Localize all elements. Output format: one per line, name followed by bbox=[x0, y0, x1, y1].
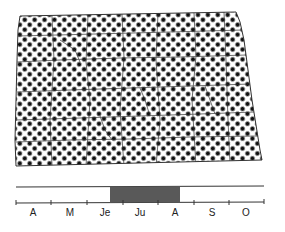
active-period-bar bbox=[110, 187, 180, 203]
month-label-september: S bbox=[209, 207, 216, 218]
month-label-july: Ju bbox=[135, 207, 146, 218]
month-label-october: O bbox=[242, 207, 250, 218]
month-labels: A M Je Ju A S O bbox=[30, 207, 250, 218]
phenology-timeline: A M Je Ju A S O bbox=[16, 186, 264, 218]
range-figure: A M Je Ju A S O bbox=[0, 0, 285, 232]
month-label-april: A bbox=[30, 207, 37, 218]
state-map bbox=[15, 12, 262, 166]
month-label-may: M bbox=[66, 207, 74, 218]
month-label-august: A bbox=[172, 207, 179, 218]
month-label-june: Je bbox=[100, 207, 111, 218]
